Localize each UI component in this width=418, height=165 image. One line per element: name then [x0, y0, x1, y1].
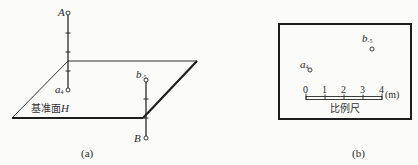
- scale-unit-text: (m): [385, 89, 399, 100]
- caption-a: (a): [81, 148, 93, 159]
- scale-tick-0: 0: [303, 85, 308, 95]
- plan-label-a4: a4: [300, 59, 309, 70]
- scale-tick-2: 2: [341, 85, 346, 95]
- point-a-marker: [308, 68, 312, 72]
- label-point-a4: a4: [55, 84, 64, 95]
- plane-label-text: 基准面: [31, 103, 61, 114]
- scale-tick-4: 4: [379, 85, 384, 95]
- scale-label-text: 比例尺: [330, 103, 360, 114]
- scale-label: 比例尺: [330, 104, 360, 114]
- point-b-marker: [370, 47, 374, 51]
- label-point-A: A: [58, 7, 65, 18]
- caption-a-text: (a): [81, 147, 93, 159]
- caption-b-text: (b): [352, 147, 365, 159]
- scale-tick-2-text: 2: [341, 84, 346, 95]
- scale-unit: (m): [385, 90, 399, 100]
- plan-label-b-subscript: -5: [368, 38, 373, 44]
- scale-tick-0-text: 0: [303, 84, 308, 95]
- projection-line-b: [144, 78, 149, 140]
- scale-tick-1: 1: [322, 85, 327, 95]
- scale-tick-1-text: 1: [322, 84, 327, 95]
- scale-tick-3-text: 3: [360, 84, 365, 95]
- scale-tick-4-text: 4: [379, 84, 384, 95]
- figure-canvas: [0, 0, 418, 165]
- caption-b: (b): [352, 148, 365, 159]
- label-point-b-5: b-5: [136, 69, 147, 80]
- plane-label: 基准面H: [31, 103, 69, 114]
- label-b-subscript: -5: [142, 74, 147, 80]
- label-A-text: A: [58, 6, 65, 18]
- plan-label-a-subscript: 4: [306, 64, 309, 70]
- label-B-text: B: [134, 132, 141, 144]
- plan-label-b-5: b-5: [362, 33, 373, 44]
- scale-tick-3: 3: [360, 85, 365, 95]
- projection-line-a: [66, 11, 71, 92]
- label-point-B: B: [134, 133, 141, 144]
- label-a-subscript: 4: [61, 89, 64, 95]
- plane-label-h: H: [61, 102, 69, 114]
